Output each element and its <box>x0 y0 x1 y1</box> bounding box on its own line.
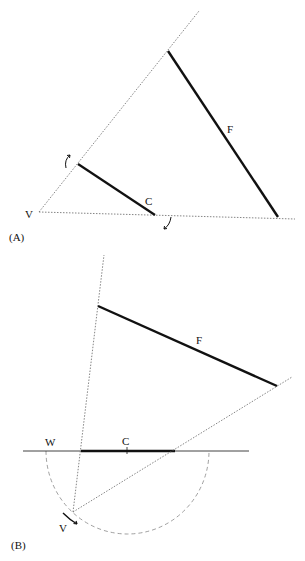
label-c-b: C <box>122 435 129 447</box>
panel-a: V C F (A) <box>9 11 295 244</box>
label-v-a: V <box>25 208 33 220</box>
rotation-arrow-lower-icon <box>164 217 171 229</box>
segment-c <box>78 164 155 215</box>
diagram-canvas: V C F (A) W C F V (B) <box>0 0 305 561</box>
ray-base <box>39 212 295 219</box>
label-v-b: V <box>59 522 67 534</box>
label-w-b: W <box>45 436 56 448</box>
caption-a: (A) <box>9 231 25 244</box>
label-f-a: F <box>227 123 233 135</box>
ray-steep <box>73 255 104 512</box>
panel-b: W C F V (B) <box>11 255 292 552</box>
segment-f-b <box>98 306 277 386</box>
label-c-a: C <box>145 195 152 207</box>
ray-upper <box>39 11 199 212</box>
label-f-b: F <box>196 334 202 346</box>
semicircle-dashed <box>46 451 209 534</box>
ray-shallow <box>73 377 292 512</box>
segment-f <box>168 51 278 217</box>
caption-b: (B) <box>11 539 26 552</box>
